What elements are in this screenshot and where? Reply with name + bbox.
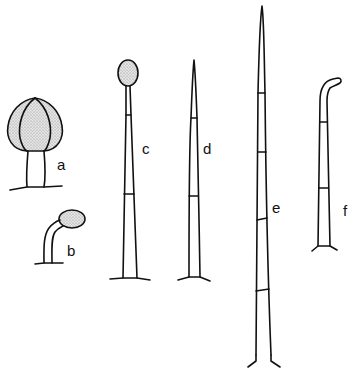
label-e: e [272,199,280,216]
hair-e-base [248,355,280,367]
hair-a-head [8,98,63,151]
label-a: a [57,156,66,173]
hair-b: b [35,210,85,264]
hair-e-septum-3 [257,218,267,220]
hair-f-base [312,246,337,251]
hair-d-base [178,277,210,281]
hair-d: d [178,60,211,281]
hair-b-base [35,263,63,264]
hair-c-head [118,60,138,86]
hair-c-base [110,278,150,280]
label-b: b [67,242,75,259]
label-c: c [142,140,150,157]
hair-a-base [10,186,62,190]
hair-f-body [318,78,341,246]
hair-a: a [8,98,66,190]
hair-f: f [312,78,348,251]
label-f: f [343,202,348,219]
hair-e-septum-4 [256,289,269,291]
hair-e-body [256,6,271,355]
trichome-diagram: a b c d e f [0,0,356,374]
hair-a-stalk [27,151,46,187]
label-d: d [203,140,211,157]
hair-c: c [110,60,150,280]
hair-e: e [248,6,280,367]
hair-d-body [189,60,200,277]
hair-b-stalk [44,220,63,263]
